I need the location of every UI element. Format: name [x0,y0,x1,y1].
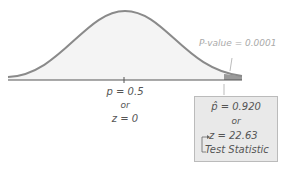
null-p-label: p = 0.5 [104,86,146,97]
test-statistic-box: p̂ = 0.920 or z = 22.63 Test Statistic [194,96,278,162]
null-or-label: or [104,100,146,110]
pvalue-pointer [230,58,232,71]
p-value-label: P-value = 0.0001 [199,38,277,48]
bracket-arrow-icon [198,97,218,157]
null-z-label: z = 0 [104,113,146,124]
